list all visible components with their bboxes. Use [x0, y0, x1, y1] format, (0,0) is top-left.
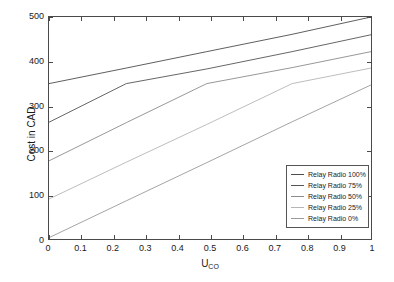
chart-figure: 0100200300400500 Cost in CAD 00.10.20.30… — [0, 0, 394, 282]
x-tick-label: 0.9 — [333, 243, 346, 253]
y-tick-mark — [367, 17, 371, 18]
x-tick-mark — [179, 235, 180, 239]
y-tick-mark — [367, 107, 371, 108]
x-tick-mark — [146, 17, 147, 21]
legend-line-swatch — [291, 196, 304, 197]
x-tick-label: 0.5 — [204, 243, 217, 253]
legend-line-swatch — [291, 218, 304, 219]
legend-item-label: Relay Radio 75% — [308, 181, 362, 190]
legend-item: Relay Radio 25% — [290, 202, 365, 213]
x-tick-mark — [146, 235, 147, 239]
x-tick-label: 1 — [369, 243, 374, 253]
x-tick-label: 0.4 — [171, 243, 184, 253]
y-tick-mark — [367, 62, 371, 63]
y-tick-mark — [49, 17, 53, 18]
y-tick-mark — [49, 62, 53, 63]
y-tick-label: 0 — [0, 235, 44, 245]
x-tick-mark — [81, 17, 82, 21]
x-tick-mark — [341, 17, 342, 21]
legend-item-label: Relay Radio 100% — [308, 170, 366, 179]
y-axis-title: Cost in CAD — [26, 54, 38, 214]
x-tick-mark — [276, 17, 277, 21]
x-tick-mark — [341, 235, 342, 239]
x-tick-mark — [211, 17, 212, 21]
series-line — [49, 17, 371, 84]
legend-line-swatch — [291, 185, 304, 186]
legend: Relay Radio 100%Relay Radio 75%Relay Rad… — [286, 165, 369, 228]
x-tick-mark — [179, 17, 180, 21]
y-tick-label: 500 — [0, 11, 44, 21]
x-tick-mark — [211, 235, 212, 239]
x-tick-label: 0.8 — [301, 243, 314, 253]
x-tick-mark — [114, 17, 115, 21]
x-tick-label: 0.2 — [107, 243, 120, 253]
x-tick-mark — [276, 235, 277, 239]
x-tick-mark — [49, 235, 50, 239]
x-tick-mark — [243, 235, 244, 239]
x-axis-title: UCO — [48, 258, 372, 271]
x-tick-label: 0.7 — [269, 243, 282, 253]
legend-line-swatch — [291, 174, 304, 175]
x-tick-label: 0.3 — [139, 243, 152, 253]
x-tick-label: 0 — [45, 243, 50, 253]
legend-item: Relay Radio 50% — [290, 191, 365, 202]
series-line — [49, 35, 371, 122]
y-tick-mark — [367, 151, 371, 152]
x-tick-label: 0.1 — [74, 243, 87, 253]
x-tick-mark — [114, 235, 115, 239]
x-tick-mark — [81, 235, 82, 239]
x-tick-label: 0.6 — [236, 243, 249, 253]
legend-item: Relay Radio 0% — [290, 213, 365, 224]
y-tick-mark — [49, 107, 53, 108]
x-tick-mark — [308, 235, 309, 239]
x-tick-mark — [243, 17, 244, 21]
legend-item-label: Relay Radio 50% — [308, 192, 362, 201]
y-tick-mark — [49, 196, 53, 197]
legend-item-label: Relay Radio 0% — [308, 214, 358, 223]
x-axis-title-subscript: CO — [208, 263, 219, 270]
y-tick-mark — [49, 151, 53, 152]
legend-item-label: Relay Radio 25% — [308, 203, 362, 212]
legend-item: Relay Radio 100% — [290, 169, 365, 180]
x-tick-mark — [308, 17, 309, 21]
legend-line-swatch — [291, 207, 304, 208]
legend-item: Relay Radio 75% — [290, 180, 365, 191]
